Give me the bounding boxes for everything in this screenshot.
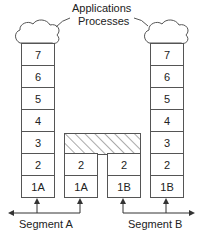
cloud-right-icon: [145, 20, 189, 43]
right-layer-2: 2: [150, 153, 184, 176]
mid-b-layer-1b: 1B: [107, 175, 141, 198]
segment-b-label: Segment B: [128, 218, 182, 230]
right-layer-3: 3: [150, 131, 184, 154]
segment-a-label: Segment A: [19, 218, 73, 230]
title-line2: Processes: [78, 15, 129, 27]
left-layer-1a: 1A: [21, 175, 55, 198]
left-layer-4: 4: [21, 109, 55, 132]
left-layer-7: 7: [21, 43, 55, 66]
right-layer-4: 4: [150, 109, 184, 132]
mid-a-layer-2: 2: [64, 153, 98, 176]
right-layer-7: 7: [150, 43, 184, 66]
mid-a-layer-1a: 1A: [64, 175, 98, 198]
left-layer-5: 5: [21, 87, 55, 110]
left-layer-3: 3: [21, 131, 55, 154]
right-layer-1b: 1B: [150, 175, 184, 198]
title-line1: Applications: [72, 2, 131, 14]
right-layer-6: 6: [150, 65, 184, 88]
mid-b-layer-2: 2: [107, 153, 141, 176]
left-layer-2: 2: [21, 153, 55, 176]
left-layer-6: 6: [21, 65, 55, 88]
hatched-layer: [65, 134, 141, 155]
cloud-left-icon: [16, 20, 60, 43]
right-layer-5: 5: [150, 87, 184, 110]
